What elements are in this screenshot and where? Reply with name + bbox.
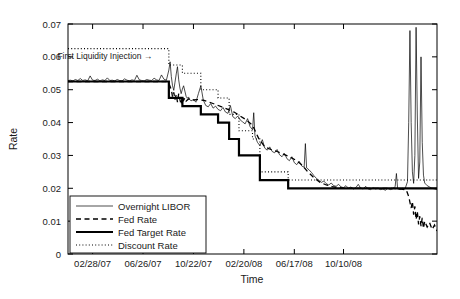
y-tick-label: 0: [56, 249, 61, 260]
rate-chart: 00.010.020.030.040.050.060.07 02/28/0706…: [0, 0, 460, 299]
x-tick-label: 10/10/08: [325, 258, 362, 269]
y-tick-label: 0.05: [43, 84, 62, 95]
x-tick-label: 10/22/07: [175, 258, 212, 269]
y-tick-label: 0.02: [43, 183, 62, 194]
annotation-group: First Liquidity Injection →: [57, 51, 152, 61]
x-tick-label: 02/20/08: [225, 258, 262, 269]
y-tick-label: 0.07: [43, 19, 62, 30]
legend-label: Overnight LIBOR: [118, 201, 190, 212]
series-line: [68, 82, 437, 189]
annotation-label: First Liquidity Injection →: [57, 51, 152, 61]
x-tick-label: 06/26/07: [125, 258, 162, 269]
y-tick-label: 0.03: [43, 150, 62, 161]
legend-label: Fed Rate: [118, 214, 157, 225]
y-tick-label: 0.04: [43, 117, 62, 128]
legend-label: Fed Target Rate: [118, 227, 186, 238]
x-tick-label: 02/28/07: [74, 258, 111, 269]
series-line: [68, 49, 437, 180]
legend: Overnight LIBORFed RateFed Target RateDi…: [70, 196, 206, 253]
legend-label: Discount Rate: [118, 240, 178, 251]
x-tick-label: 06/17/08: [276, 258, 313, 269]
x-axis-title: Time: [241, 273, 264, 285]
figure-container: 00.010.020.030.040.050.060.07 02/28/0706…: [0, 0, 460, 299]
y-tick-label: 0.01: [43, 216, 62, 227]
y-axis-title: Rate: [7, 128, 19, 150]
